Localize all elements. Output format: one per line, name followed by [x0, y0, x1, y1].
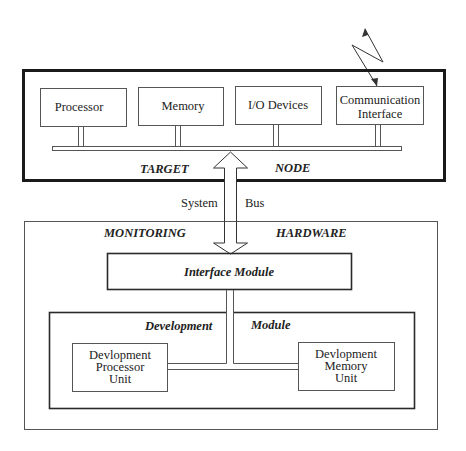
development-module-title-right: Module [250, 318, 291, 332]
memory-label: Memory [161, 99, 205, 113]
interface-to-dev-connector [227, 290, 234, 364]
lightning-arrow-icon [352, 28, 383, 86]
communication-label-line2: Interface [358, 107, 403, 121]
dev-memory-label-line3: Unit [335, 371, 358, 385]
development-module-title-left: Development [144, 319, 213, 333]
system-bus-label-right: Bus [245, 196, 265, 210]
system-bus-arrow [214, 152, 248, 254]
processor-label: Processor [55, 100, 104, 114]
dev-processor-label-line3: Unit [109, 372, 132, 386]
target-node-title-left: TARGET [140, 162, 190, 176]
monitoring-title-left: MONITORING [103, 226, 186, 240]
system-bus-label-left: System [181, 196, 218, 210]
target-node-title-right: NODE [274, 161, 310, 175]
system-diagram: Processor Memory I/O Devices Communicati… [0, 0, 466, 451]
component-connectors [79, 124, 381, 146]
interface-module-label: Interface Module [183, 265, 274, 279]
dev-internal-bus [167, 364, 298, 370]
communication-label-line1: Communication [340, 93, 421, 107]
io-devices-label: I/O Devices [248, 98, 308, 112]
internal-bus-bar [53, 147, 402, 151]
monitoring-title-right: HARDWARE [275, 226, 347, 240]
